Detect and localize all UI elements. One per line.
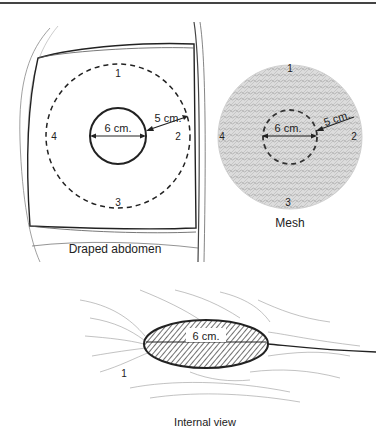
internal-defect-diameter-label: 6 cm. — [193, 330, 220, 342]
mesh-position-label-2: 2 — [351, 131, 357, 142]
position-label-4: 4 — [51, 131, 57, 142]
mesh-position-label-3: 3 — [285, 197, 291, 208]
caption-mesh: Mesh — [250, 216, 330, 230]
caption-internal-view: Internal view — [140, 416, 270, 428]
defect-diameter-label: 6 cm. — [105, 122, 132, 134]
mesh-defect-diameter-label: 6 cm. — [275, 122, 302, 134]
internal-marker-label: 1 — [121, 368, 127, 379]
mesh-position-label-1: 1 — [287, 63, 293, 74]
position-label-3: 3 — [115, 197, 121, 208]
position-label-1: 1 — [115, 68, 121, 79]
mesh-figure — [218, 65, 362, 209]
position-label-2: 2 — [175, 131, 181, 142]
margin-radius-label: 5 cm. — [155, 112, 182, 124]
caption-draped-abdomen: Draped abdomen — [40, 242, 190, 256]
draped-abdomen-figure — [20, 22, 205, 262]
mesh-disc — [218, 65, 362, 209]
internal-view-figure — [80, 290, 376, 402]
mesh-position-label-4: 4 — [219, 131, 225, 142]
